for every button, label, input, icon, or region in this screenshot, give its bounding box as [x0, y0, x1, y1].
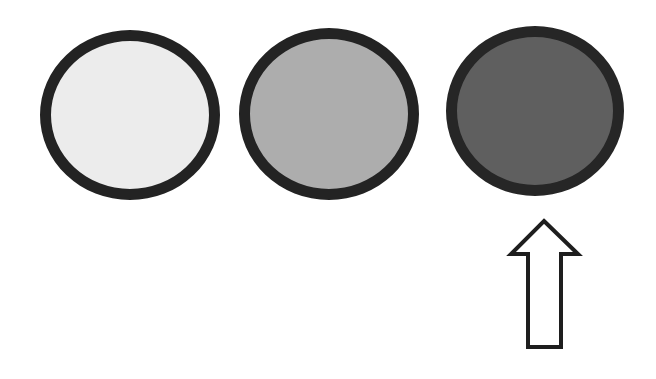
light-gray-circle — [40, 30, 220, 200]
dark-gray-circle — [446, 26, 624, 196]
diagram-canvas — [0, 0, 656, 379]
medium-gray-circle — [239, 28, 419, 200]
up-arrow-icon — [505, 215, 585, 355]
